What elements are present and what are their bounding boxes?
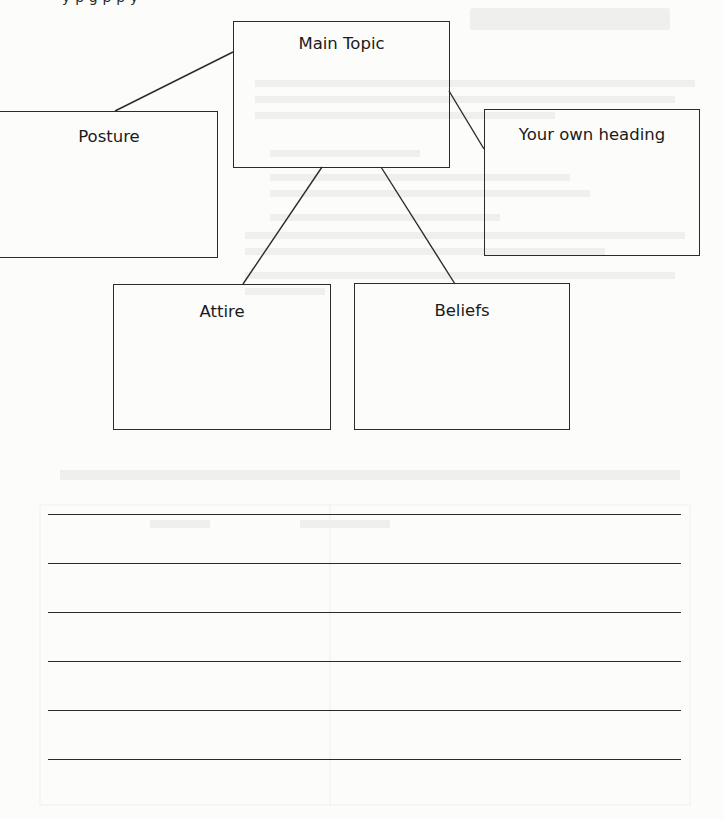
connector-main-to-posture <box>115 52 233 111</box>
cut-off-heading-text: y p g p p y <box>62 0 139 5</box>
writing-line-4[interactable] <box>48 661 681 662</box>
beliefs-label: Beliefs <box>355 301 569 320</box>
connector-main-to-attire <box>243 167 322 284</box>
posture-box[interactable]: Posture <box>0 111 218 258</box>
writing-line-1[interactable] <box>48 514 681 515</box>
main-topic-box[interactable]: Main Topic <box>233 21 450 168</box>
posture-label: Posture <box>1 127 217 146</box>
your-own-heading-label: Your own heading <box>485 125 699 144</box>
writing-line-6[interactable] <box>48 759 681 760</box>
main-topic-label: Main Topic <box>234 34 449 53</box>
writing-line-5[interactable] <box>48 710 681 711</box>
attire-box[interactable]: Attire <box>113 284 331 430</box>
your-own-heading-box[interactable]: Your own heading <box>484 109 700 256</box>
connector-main-to-beliefs <box>381 167 455 284</box>
writing-line-2[interactable] <box>48 563 681 564</box>
connector-main-to-your-own-heading <box>449 91 484 149</box>
attire-label: Attire <box>114 302 330 321</box>
writing-line-3[interactable] <box>48 612 681 613</box>
beliefs-box[interactable]: Beliefs <box>354 283 570 430</box>
